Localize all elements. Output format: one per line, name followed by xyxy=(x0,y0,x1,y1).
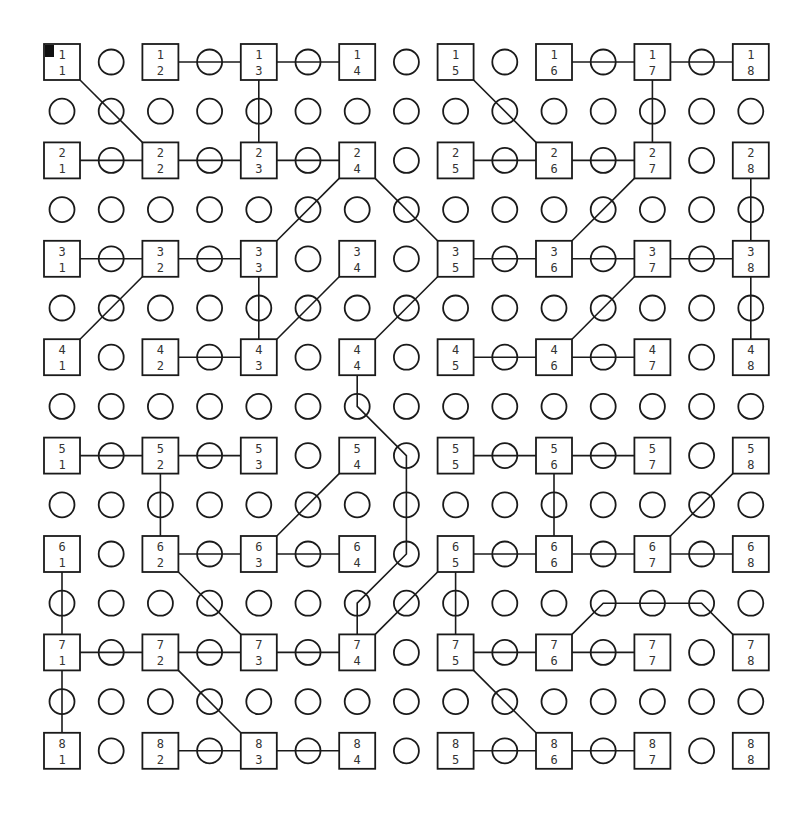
node-box-3-4[interactable]: 34 xyxy=(339,241,375,277)
node-box-6-2[interactable]: 62 xyxy=(142,536,178,572)
node-box-7-2[interactable]: 72 xyxy=(142,634,178,670)
node-box-1-3[interactable]: 13 xyxy=(241,44,277,80)
node-col-label: 5 xyxy=(452,261,459,275)
node-box-1-4[interactable]: 14 xyxy=(339,44,375,80)
node-col-label: 2 xyxy=(157,261,164,275)
node-box-8-5[interactable]: 85 xyxy=(438,733,474,769)
node-box-4-1[interactable]: 41 xyxy=(44,339,80,375)
node-box-5-3[interactable]: 53 xyxy=(241,438,277,474)
node-box-6-4[interactable]: 64 xyxy=(339,536,375,572)
node-col-label: 2 xyxy=(157,64,164,78)
node-col-label: 8 xyxy=(747,753,754,767)
node-box-6-8[interactable]: 68 xyxy=(733,536,769,572)
node-box-5-5[interactable]: 55 xyxy=(438,438,474,474)
node-box-1-5[interactable]: 15 xyxy=(438,44,474,80)
node-box-1-6[interactable]: 16 xyxy=(536,44,572,80)
node-box-8-1[interactable]: 81 xyxy=(44,733,80,769)
node-col-label: 2 xyxy=(157,359,164,373)
node-box-1-8[interactable]: 18 xyxy=(733,44,769,80)
connection-line xyxy=(277,474,339,536)
node-box-7-1[interactable]: 71 xyxy=(44,634,80,670)
node-box-8-8[interactable]: 88 xyxy=(733,733,769,769)
node-box-2-4[interactable]: 24 xyxy=(339,142,375,178)
node-box-3-3[interactable]: 33 xyxy=(241,241,277,277)
node-box-3-8[interactable]: 38 xyxy=(733,241,769,277)
node-row-label: 8 xyxy=(452,737,459,751)
node-box-4-6[interactable]: 46 xyxy=(536,339,572,375)
node-box-4-7[interactable]: 47 xyxy=(634,339,670,375)
node-box-4-2[interactable]: 42 xyxy=(142,339,178,375)
node-row-label: 2 xyxy=(157,146,164,160)
node-box-8-6[interactable]: 86 xyxy=(536,733,572,769)
node-box-7-8[interactable]: 78 xyxy=(733,634,769,670)
node-box-2-7[interactable]: 27 xyxy=(634,142,670,178)
node-box-7-5[interactable]: 75 xyxy=(438,634,474,670)
node-row-label: 5 xyxy=(157,442,164,456)
node-box-5-1[interactable]: 51 xyxy=(44,438,80,474)
node-col-label: 6 xyxy=(550,359,557,373)
connection-line xyxy=(375,572,437,634)
junction-circle xyxy=(443,689,468,714)
node-row-label: 4 xyxy=(550,343,557,357)
node-box-8-3[interactable]: 83 xyxy=(241,733,277,769)
node-row-label: 5 xyxy=(747,442,754,456)
node-row-label: 6 xyxy=(452,540,459,554)
node-col-label: 8 xyxy=(747,261,754,275)
node-box-7-4[interactable]: 74 xyxy=(339,634,375,670)
junction-circle xyxy=(689,394,714,419)
node-row-label: 1 xyxy=(747,48,754,62)
connection-line xyxy=(80,80,142,142)
junction-circle xyxy=(148,197,173,222)
junction-circle xyxy=(148,689,173,714)
junction-circle xyxy=(689,345,714,370)
connection-line xyxy=(670,474,732,536)
node-col-label: 4 xyxy=(354,64,361,78)
node-box-6-5[interactable]: 65 xyxy=(438,536,474,572)
node-box-3-1[interactable]: 31 xyxy=(44,241,80,277)
junction-circle xyxy=(492,296,517,321)
junction-circle xyxy=(640,394,665,419)
node-box-7-7[interactable]: 77 xyxy=(634,634,670,670)
node-box-2-1[interactable]: 21 xyxy=(44,142,80,178)
node-box-1-7[interactable]: 17 xyxy=(634,44,670,80)
node-box-3-7[interactable]: 37 xyxy=(634,241,670,277)
junction-circle xyxy=(99,689,124,714)
node-box-2-2[interactable]: 22 xyxy=(142,142,178,178)
node-box-5-2[interactable]: 52 xyxy=(142,438,178,474)
node-col-label: 5 xyxy=(452,753,459,767)
node-box-2-8[interactable]: 28 xyxy=(733,142,769,178)
node-row-label: 1 xyxy=(354,48,361,62)
node-box-1-1[interactable]: 11 xyxy=(44,44,80,80)
node-box-5-6[interactable]: 56 xyxy=(536,438,572,474)
node-col-label: 6 xyxy=(550,753,557,767)
node-box-2-3[interactable]: 23 xyxy=(241,142,277,178)
node-box-3-5[interactable]: 35 xyxy=(438,241,474,277)
node-box-5-8[interactable]: 58 xyxy=(733,438,769,474)
node-box-2-5[interactable]: 25 xyxy=(438,142,474,178)
node-box-4-3[interactable]: 43 xyxy=(241,339,277,375)
node-box-6-7[interactable]: 67 xyxy=(634,536,670,572)
junction-circle xyxy=(738,591,763,616)
junction-circle xyxy=(738,394,763,419)
node-box-6-3[interactable]: 63 xyxy=(241,536,277,572)
node-box-5-4[interactable]: 54 xyxy=(339,438,375,474)
node-box-2-6[interactable]: 26 xyxy=(536,142,572,178)
node-col-label: 2 xyxy=(157,458,164,472)
node-box-7-3[interactable]: 73 xyxy=(241,634,277,670)
node-box-4-5[interactable]: 45 xyxy=(438,339,474,375)
node-box-4-8[interactable]: 48 xyxy=(733,339,769,375)
node-box-7-6[interactable]: 76 xyxy=(536,634,572,670)
node-box-3-6[interactable]: 36 xyxy=(536,241,572,277)
node-box-1-2[interactable]: 12 xyxy=(142,44,178,80)
node-box-8-4[interactable]: 84 xyxy=(339,733,375,769)
node-box-4-4[interactable]: 44 xyxy=(339,339,375,375)
node-box-6-6[interactable]: 66 xyxy=(536,536,572,572)
node-box-8-7[interactable]: 87 xyxy=(634,733,670,769)
node-box-6-1[interactable]: 61 xyxy=(44,536,80,572)
node-row-label: 4 xyxy=(58,343,65,357)
node-box-3-2[interactable]: 32 xyxy=(142,241,178,277)
node-box-8-2[interactable]: 82 xyxy=(142,733,178,769)
node-box-5-7[interactable]: 57 xyxy=(634,438,670,474)
node-row-label: 7 xyxy=(452,638,459,652)
junction-circle xyxy=(394,50,419,75)
